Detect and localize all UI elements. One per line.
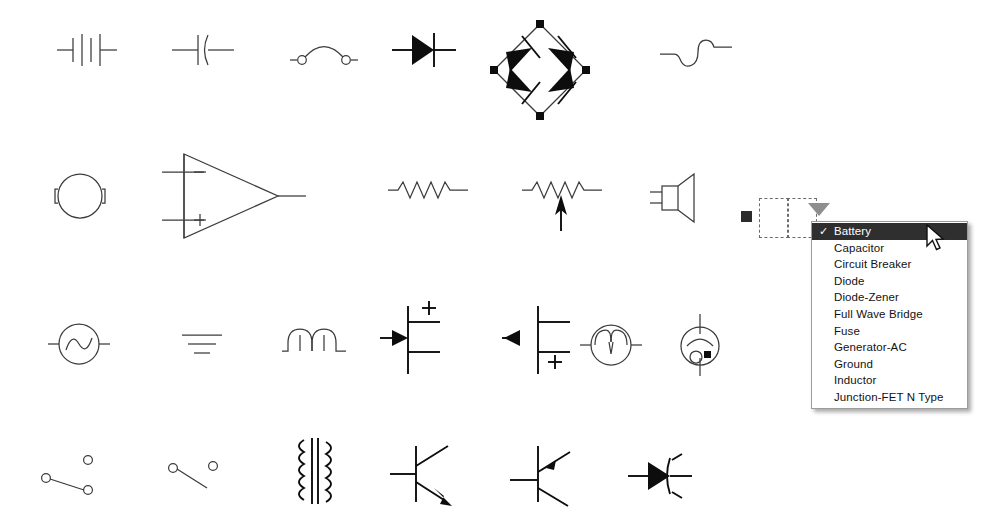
dropdown-item-label: Ground	[834, 358, 873, 370]
dropdown-item-label: Diode-Zener	[834, 291, 899, 303]
symbol-generator-ac[interactable]	[46, 318, 112, 370]
dropdown-item-battery[interactable]: ✓ Battery	[812, 223, 967, 240]
dropdown-item-fuse[interactable]: Fuse	[812, 323, 967, 340]
symbol-circuit-breaker[interactable]	[288, 30, 360, 70]
symbol-transistor-npn[interactable]	[388, 438, 466, 510]
triangle-down-icon[interactable]	[808, 203, 830, 216]
symbol-junction-fet-n-type[interactable]	[378, 300, 454, 380]
dropdown-item-label: Fuse	[834, 325, 860, 337]
dropdown-item-label: Battery	[834, 225, 871, 237]
dropdown-item-junction-fet-n-type[interactable]: Junction-FET N Type	[812, 389, 967, 406]
symbol-switch-spst[interactable]	[165, 456, 235, 498]
dropdown-item-capacitor[interactable]: Capacitor	[812, 240, 967, 257]
symbol-inductor[interactable]	[280, 325, 352, 357]
dropdown-item-inductor[interactable]: Inductor	[812, 372, 967, 389]
symbol-operational-amplifier[interactable]	[160, 150, 308, 242]
symbol-speaker[interactable]	[648, 170, 704, 226]
dropdown-item-label: Circuit Breaker	[834, 258, 912, 270]
symbol-transistor-pnp[interactable]	[508, 438, 586, 510]
symbol-diode[interactable]	[390, 28, 460, 72]
symbol-full-wave-bridge[interactable]	[488, 18, 592, 122]
symbol-resistor[interactable]	[386, 177, 470, 203]
symbol-fuse[interactable]	[658, 32, 736, 72]
symbol-type-dropdown[interactable]: ✓ Battery Capacitor Circuit Breaker Diod…	[811, 221, 968, 409]
symbol-transformer[interactable]	[294, 436, 342, 506]
dropdown-item-diode[interactable]: Diode	[812, 273, 967, 290]
symbol-junction-fet-p-type[interactable]	[498, 300, 574, 380]
symbol-vacuum-tube[interactable]	[672, 312, 728, 378]
symbol-lamp[interactable]	[50, 168, 110, 224]
dropdown-item-diode-zener[interactable]: Diode-Zener	[812, 289, 967, 306]
dropdown-item-full-wave-bridge[interactable]: Full Wave Bridge	[812, 306, 967, 323]
symbol-motor[interactable]	[578, 318, 644, 372]
dropdown-item-ground[interactable]: Ground	[812, 356, 967, 373]
selection-marquee-icon	[759, 198, 789, 238]
dropdown-item-label: Junction-FET N Type	[834, 391, 944, 403]
dropdown-item-label: Capacitor	[834, 242, 884, 254]
symbol-resistor-variable[interactable]	[520, 177, 604, 233]
symbol-battery[interactable]	[55, 30, 125, 70]
dropdown-item-label: Diode	[834, 275, 865, 287]
dropdown-item-label: Full Wave Bridge	[834, 308, 923, 320]
check-icon: ✓	[818, 223, 830, 240]
dropdown-item-label: Generator-AC	[834, 341, 907, 353]
symbol-capacitor[interactable]	[170, 30, 240, 70]
dropdown-item-generator-ac[interactable]: Generator-AC	[812, 339, 967, 356]
symbol-ground[interactable]	[178, 330, 226, 360]
dropdown-item-label: Inductor	[834, 374, 876, 386]
dropdown-item-circuit-breaker[interactable]: Circuit Breaker	[812, 256, 967, 273]
symbol-switch-spdt[interactable]	[38, 448, 108, 500]
resize-handle-icon[interactable]	[741, 211, 752, 222]
symbol-thyristor[interactable]	[626, 452, 708, 500]
